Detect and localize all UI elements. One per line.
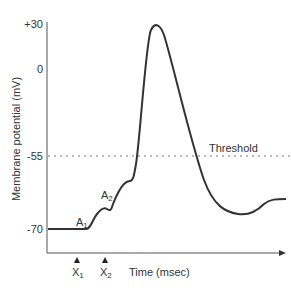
- a1-label: A1: [76, 216, 88, 230]
- a2-label: A2: [101, 189, 113, 203]
- ytick-m55: -55: [27, 150, 43, 162]
- x2-label: X2: [100, 266, 112, 280]
- ytick-0: 0: [37, 63, 43, 75]
- ytick-30: +30: [24, 18, 43, 30]
- x1-label: X1: [72, 266, 84, 280]
- threshold-label: Threshold: [209, 142, 258, 154]
- x2-marker-icon: [102, 257, 108, 263]
- ytick-m70: -70: [27, 223, 43, 235]
- chart-svg: +30 0 -55 -70 Membrane potential (mV) Th…: [0, 0, 291, 290]
- x-axis-arrow-icon: [279, 250, 286, 256]
- action-potential-chart: +30 0 -55 -70 Membrane potential (mV) Th…: [0, 0, 291, 290]
- x1-marker-icon: [74, 257, 80, 263]
- y-axis-label: Membrane potential (mV): [10, 77, 22, 201]
- x-axis-label: Time (msec): [129, 266, 190, 278]
- membrane-potential-curve: [48, 25, 286, 229]
